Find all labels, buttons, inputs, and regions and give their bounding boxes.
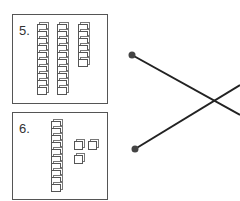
matching-lines bbox=[0, 0, 240, 201]
match-line-1[interactable] bbox=[132, 55, 240, 115]
dot-icon[interactable] bbox=[132, 146, 139, 153]
dot-icon[interactable] bbox=[129, 52, 136, 59]
match-line-2[interactable] bbox=[135, 85, 240, 149]
